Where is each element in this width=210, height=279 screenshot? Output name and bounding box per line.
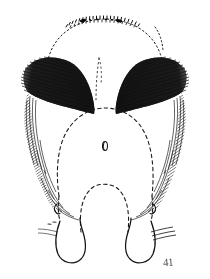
figure-canvas: 41 [0, 0, 210, 279]
illustration-svg [0, 0, 210, 279]
